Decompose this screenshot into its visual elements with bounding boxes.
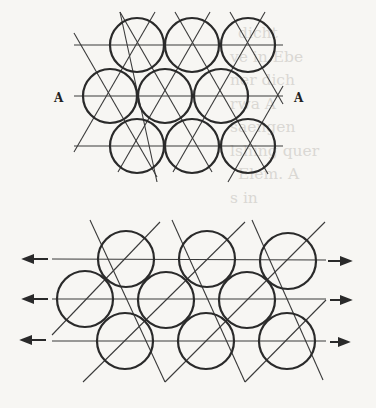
label-a-right: A — [293, 91, 304, 105]
hexagonal-packing-figure: A A — [53, 12, 304, 182]
tension-packing-figure — [22, 220, 350, 382]
arrow-right-icon — [328, 258, 350, 265]
arrows-right — [328, 258, 350, 346]
arrow-left-icon — [24, 296, 48, 303]
label-a-left: A — [53, 91, 64, 105]
arrow-right-icon — [330, 339, 348, 346]
arrow-left-icon — [22, 337, 46, 344]
lattice-line-horizontal — [52, 259, 326, 260]
lattice-lines-45deg — [52, 220, 326, 382]
arrows-left — [22, 256, 48, 344]
packing-diagrams: A A — [0, 0, 376, 408]
arrow-right-icon — [330, 297, 350, 304]
lattice-lines-60deg — [74, 12, 283, 182]
arrow-left-icon — [24, 256, 48, 263]
